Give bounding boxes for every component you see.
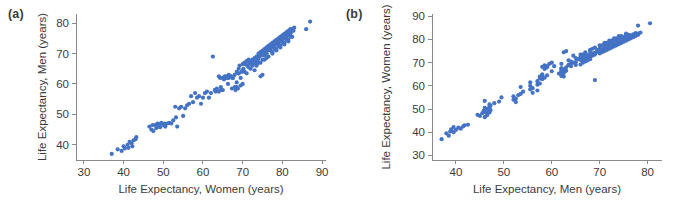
x-tick-label: 40: [450, 166, 463, 178]
data-point: [207, 96, 211, 100]
x-tick-label: 60: [545, 166, 558, 178]
data-point: [634, 31, 638, 35]
y-tick-label: 30: [412, 149, 425, 161]
data-point: [241, 82, 245, 86]
data-point: [258, 61, 262, 65]
data-point: [605, 42, 609, 46]
data-point: [217, 89, 221, 93]
x-tick-label: 50: [157, 166, 170, 178]
data-point: [201, 96, 205, 100]
data-point: [483, 99, 487, 103]
x-tick-label: 40: [117, 166, 130, 178]
y-tick-label: 50: [412, 103, 425, 115]
y-tick-label: 80: [412, 33, 425, 45]
data-point: [636, 23, 640, 27]
data-point: [624, 33, 628, 37]
data-point: [225, 76, 229, 80]
data-point: [492, 101, 496, 105]
data-point: [466, 123, 470, 127]
x-axis-title: Life Expectancy, Women (years): [118, 183, 283, 195]
data-point: [256, 56, 260, 60]
data-point: [571, 61, 575, 65]
data-point: [552, 64, 556, 68]
panel-b: (b) 405060708030405060708090Life Expecta…: [340, 0, 674, 205]
data-point: [189, 94, 193, 98]
x-tick-label: 80: [641, 166, 654, 178]
data-point: [276, 44, 280, 48]
data-point: [610, 40, 614, 44]
y-tick-label: 60: [412, 80, 425, 92]
y-tick-label: 60: [56, 78, 69, 90]
data-point: [487, 102, 491, 106]
y-axis-title: Life Expectancy, Men (years): [36, 13, 48, 161]
data-point: [175, 124, 179, 128]
y-tick-label: 40: [412, 126, 425, 138]
data-point: [483, 106, 487, 110]
data-point: [262, 58, 266, 62]
y-tick-label: 80: [56, 17, 69, 29]
data-point: [116, 147, 120, 151]
data-point: [521, 90, 525, 94]
data-point: [197, 94, 201, 98]
data-point: [247, 65, 251, 69]
data-point: [531, 91, 535, 95]
panel-a: (a) 304050607080904050607080Life Expecta…: [0, 0, 340, 205]
y-tick-label: 90: [412, 10, 425, 22]
data-point: [130, 144, 134, 148]
data-point: [475, 113, 479, 117]
data-point: [439, 137, 443, 141]
data-point: [638, 30, 642, 34]
data-point: [550, 61, 554, 65]
data-point: [540, 72, 544, 76]
x-tick-label: 80: [276, 166, 289, 178]
data-points: [439, 21, 652, 141]
data-point: [241, 68, 245, 72]
data-point: [110, 152, 114, 156]
data-point: [648, 21, 652, 25]
data-point: [511, 94, 515, 98]
data-point: [213, 88, 217, 92]
x-tick-label: 50: [497, 166, 510, 178]
x-tick-label: 70: [593, 166, 606, 178]
data-point: [235, 85, 239, 89]
data-point: [179, 105, 183, 109]
data-point: [235, 80, 239, 84]
data-point: [174, 115, 178, 119]
data-point: [535, 88, 539, 92]
data-point: [134, 135, 138, 139]
data-point: [226, 82, 230, 86]
data-point: [126, 146, 130, 150]
data-point: [272, 47, 276, 51]
data-point: [288, 35, 292, 39]
data-point: [187, 102, 191, 106]
data-point: [292, 26, 296, 30]
data-point: [264, 51, 268, 55]
data-point: [598, 47, 602, 51]
x-axis-title: Life Expectancy, Men (years): [473, 183, 621, 195]
x-tick-label: 70: [236, 166, 249, 178]
data-point: [593, 78, 597, 82]
data-point: [260, 53, 264, 57]
data-point: [237, 67, 241, 71]
data-point: [545, 73, 549, 77]
y-tick-label: 70: [56, 48, 69, 60]
data-point: [444, 131, 448, 135]
data-point: [123, 146, 127, 150]
y-tick-label: 40: [56, 139, 69, 151]
data-point: [239, 76, 243, 80]
x-tick-label: 60: [197, 166, 210, 178]
life-expectancy-scatter-figure: (a) 304050607080904050607080Life Expecta…: [0, 0, 674, 205]
panel-a-plot: 304050607080904050607080Life Expectancy,…: [0, 0, 340, 205]
data-point: [499, 95, 503, 99]
data-point: [237, 71, 241, 75]
x-tick-label: 90: [316, 166, 329, 178]
panel-b-plot: 405060708030405060708090Life Expectancy,…: [340, 0, 674, 205]
data-point: [519, 85, 523, 89]
data-point: [593, 46, 597, 50]
data-point: [497, 100, 501, 104]
y-tick-label: 50: [56, 108, 69, 120]
data-point: [173, 105, 177, 109]
y-tick-label: 70: [412, 57, 425, 69]
data-point: [252, 68, 256, 72]
y-axis-title: Life Expectancy, Women (years): [380, 4, 392, 169]
